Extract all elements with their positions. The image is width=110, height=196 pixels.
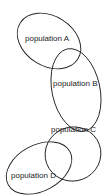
- label-population-a: population A: [25, 34, 70, 43]
- label-population-c: population C: [51, 125, 96, 134]
- population-diagram: population A population B population C p…: [0, 0, 110, 196]
- ellipse-population-b: [44, 44, 108, 136]
- label-population-b: population B: [53, 79, 97, 88]
- label-population-d: population D: [11, 171, 56, 180]
- ellipse-population-d: [0, 131, 81, 196]
